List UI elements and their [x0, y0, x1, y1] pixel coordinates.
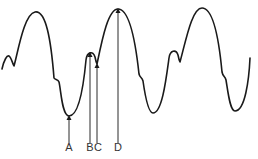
- marker-c: [95, 63, 100, 143]
- waveform-diagram: [0, 0, 258, 159]
- marker-d: [116, 8, 121, 143]
- arrow-up-icon: [95, 63, 100, 68]
- marker-b: [88, 52, 93, 143]
- label-c: C: [94, 142, 102, 153]
- waveform-curve: [2, 8, 250, 116]
- marker-a: [67, 115, 72, 143]
- label-a: A: [65, 142, 72, 153]
- label-d: D: [114, 142, 122, 153]
- label-b: B: [86, 142, 93, 153]
